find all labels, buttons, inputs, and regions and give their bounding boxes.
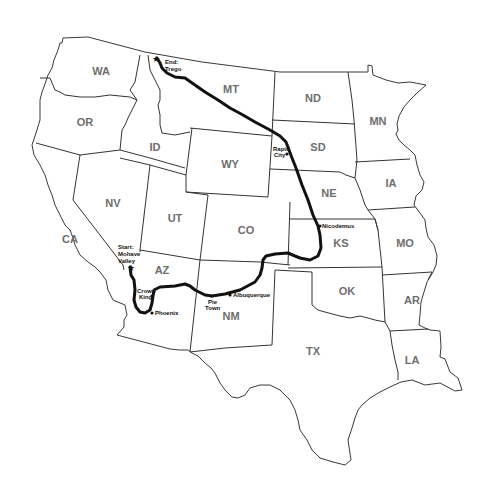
- state-label-id: ID: [150, 141, 161, 153]
- map-outline: [32, 37, 462, 465]
- start-label-line2: Mohave: [118, 251, 141, 257]
- pie-town-dot-icon: [210, 294, 213, 297]
- state-label-mt: MT: [223, 83, 239, 95]
- state-label-mo: MO: [396, 237, 414, 249]
- start-label-line3: Valley: [118, 258, 136, 264]
- end-star-icon: ★: [152, 54, 160, 64]
- state-label-tx: TX: [306, 345, 321, 357]
- state-label-mn: MN: [369, 115, 386, 127]
- albuquerque-label: Albuquerque: [233, 292, 271, 298]
- state-label-ne: NE: [321, 187, 336, 199]
- state-label-az: AZ: [155, 264, 170, 276]
- start-star-icon: ★: [127, 263, 135, 273]
- phoenix-label: Phoenix: [155, 310, 179, 316]
- state-label-wa: WA: [92, 65, 110, 77]
- state-label-ok: OK: [339, 285, 356, 297]
- albuquerque-dot-icon: [228, 293, 231, 296]
- state-label-nd: ND: [305, 92, 321, 104]
- state-label-ut: UT: [168, 212, 183, 224]
- end-label: End:: [165, 59, 178, 65]
- state-label-ca: CA: [62, 233, 78, 245]
- crown-king-label-line2: King: [139, 294, 153, 300]
- route-map: WA OR CA NV ID MT WY UT CO AZ NM ND SD N…: [0, 0, 487, 482]
- start-label: Start:: [118, 244, 134, 250]
- state-label-wy: WY: [221, 158, 239, 170]
- state-label-ks: KS: [333, 237, 348, 249]
- nicodemus-label: Nicodemus: [322, 223, 355, 229]
- state-label-la: LA: [405, 354, 420, 366]
- state-label-sd: SD: [310, 141, 325, 153]
- pie-town-label-line2: Town: [205, 305, 221, 311]
- state-label-ar: AR: [404, 294, 420, 306]
- rapid-city-label-line2: City: [274, 152, 286, 158]
- phoenix-dot-icon: [150, 311, 153, 314]
- state-label-nm: NM: [222, 310, 239, 322]
- end-label-line2: Trego: [165, 66, 182, 72]
- state-label-nv: NV: [105, 197, 121, 209]
- state-label-or: OR: [77, 116, 94, 128]
- rapid-city-dot-icon: [285, 152, 288, 155]
- state-label-ia: IA: [386, 177, 397, 189]
- state-label-co: CO: [238, 224, 255, 236]
